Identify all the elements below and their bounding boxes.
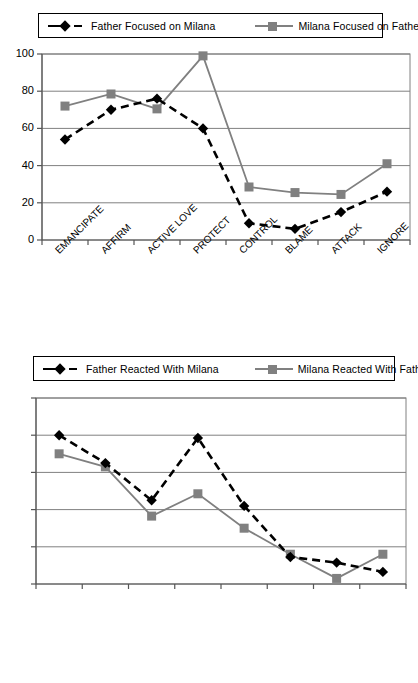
- legend-entry-milana-reacted: Milana Reacted With Father: [255, 363, 418, 375]
- chart-focused-legend: Father Focused on Milana Milana Focused …: [38, 13, 383, 38]
- y-tick-label: 0: [8, 233, 34, 245]
- legend-label-milana-reacted: Milana Reacted With Father: [298, 363, 418, 375]
- chart-reacted-block: Father Reacted With Milana Milana Reacte…: [0, 352, 418, 683]
- legend-label-milana-focused: Milana Focused on Father: [298, 20, 418, 32]
- legend-entry-father-reacted: Father Reacted With Milana: [43, 363, 219, 375]
- y-tick-label: 80: [8, 84, 34, 96]
- legend-label-father-focused: Father Focused on Milana: [91, 20, 215, 32]
- chart-reacted-svg: [0, 390, 418, 595]
- chart-focused-block: Father Focused on Milana Milana Focused …: [0, 0, 418, 330]
- chart-reacted-plot: [0, 390, 418, 595]
- black-diamond-dashed-line-icon: [43, 363, 81, 375]
- chart-reacted-legend: Father Reacted With Milana Milana Reacte…: [33, 356, 395, 381]
- y-tick-label: 40: [8, 159, 34, 171]
- gray-square-solid-line-icon: [255, 20, 293, 32]
- gray-square-solid-line-icon: [255, 363, 293, 375]
- legend-entry-father-focused: Father Focused on Milana: [48, 20, 215, 32]
- legend-label-father-reacted: Father Reacted With Milana: [86, 363, 219, 375]
- y-tick-label: 100: [8, 47, 34, 59]
- black-diamond-dashed-line-icon: [48, 20, 86, 32]
- y-tick-label: 60: [8, 121, 34, 133]
- legend-entry-milana-focused: Milana Focused on Father: [255, 20, 418, 32]
- y-tick-label: 20: [8, 196, 34, 208]
